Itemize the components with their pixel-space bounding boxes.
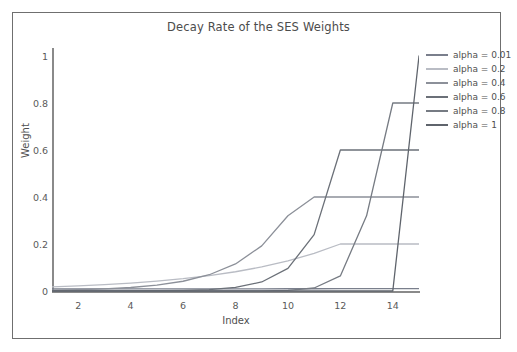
legend-swatch	[426, 96, 448, 98]
legend-item[interactable]: alpha = 0.8	[426, 104, 504, 118]
legend-label: alpha = 0.01	[453, 50, 511, 60]
series-line	[52, 56, 419, 291]
x-tick-label: 8	[216, 300, 256, 311]
x-axis-label: Index	[52, 315, 420, 326]
y-axis-ticks: 00.20.40.60.81	[0, 0, 48, 352]
y-tick-label: 0.4	[2, 192, 48, 203]
legend-swatch	[426, 110, 448, 112]
y-axis-label: Weight	[20, 123, 31, 158]
series-line	[52, 244, 419, 287]
legend-item[interactable]: alpha = 0.01	[426, 48, 504, 62]
y-tick-label: 0	[2, 286, 48, 297]
plot-area	[52, 48, 419, 292]
y-tick-label: 0.8	[2, 98, 48, 109]
chart-legend: alpha = 0.01alpha = 0.2alpha = 0.4alpha …	[426, 48, 504, 132]
x-tick-label: 4	[111, 300, 151, 311]
legend-label: alpha = 0.4	[453, 78, 506, 88]
x-tick-label: 14	[373, 300, 413, 311]
legend-label: alpha = 0.6	[453, 92, 506, 102]
legend-label: alpha = 1	[453, 120, 497, 130]
x-tick-label: 2	[58, 300, 98, 311]
legend-item[interactable]: alpha = 1	[426, 118, 504, 132]
legend-item[interactable]: alpha = 0.2	[426, 62, 504, 76]
legend-swatch	[426, 68, 448, 70]
y-tick-label: 1	[2, 51, 48, 62]
legend-label: alpha = 0.2	[453, 64, 506, 74]
legend-item[interactable]: alpha = 0.6	[426, 90, 504, 104]
x-tick-label: 6	[163, 300, 203, 311]
legend-swatch	[426, 54, 448, 56]
legend-label: alpha = 0.8	[453, 106, 506, 116]
legend-item[interactable]: alpha = 0.4	[426, 76, 504, 90]
legend-swatch	[426, 82, 448, 84]
chart-title: Decay Rate of the SES Weights	[0, 20, 517, 34]
legend-swatch	[426, 124, 448, 126]
x-tick-label: 10	[268, 300, 308, 311]
series-lines	[52, 48, 419, 292]
x-tick-label: 12	[320, 300, 360, 311]
y-tick-label: 0.2	[2, 239, 48, 250]
chart-screenshot: Decay Rate of the SES Weights 00.20.40.6…	[0, 0, 517, 352]
